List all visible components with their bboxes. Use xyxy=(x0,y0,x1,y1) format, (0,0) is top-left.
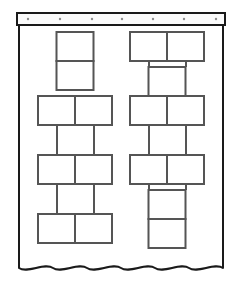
left-row-5-cell-2[interactable] xyxy=(75,214,112,243)
left-row-3-cell-1[interactable] xyxy=(38,96,75,125)
right-row-2-cell-1[interactable] xyxy=(149,67,186,96)
left-row-3-cell-2[interactable] xyxy=(75,96,112,125)
right-row-3-cell-1[interactable] xyxy=(130,96,167,125)
right-row-6-cell-1[interactable] xyxy=(149,219,186,248)
left-row-5-cell-1[interactable] xyxy=(38,214,75,243)
left-row-4-cell-2[interactable] xyxy=(75,155,112,184)
left-row-4-cell-1[interactable] xyxy=(38,155,75,184)
curtain-diagram xyxy=(0,0,241,286)
grommet-4 xyxy=(121,18,123,20)
grommet-6 xyxy=(183,18,185,20)
grommet-5 xyxy=(152,18,154,20)
grommet-3 xyxy=(91,18,93,20)
right-row-1-cell-2[interactable] xyxy=(167,32,204,61)
left-row-2-cell-1[interactable] xyxy=(57,61,94,90)
right-row-3-cell-2[interactable] xyxy=(167,96,204,125)
grommet-1 xyxy=(27,18,29,20)
right-row-5-cell-1[interactable] xyxy=(149,190,186,219)
grommet-7 xyxy=(215,18,217,20)
right-row-4-cell-2[interactable] xyxy=(167,155,204,184)
diagram-canvas xyxy=(0,0,241,286)
right-row-1-cell-1[interactable] xyxy=(130,32,167,61)
right-row-4-cell-1[interactable] xyxy=(130,155,167,184)
grommet-2 xyxy=(59,18,61,20)
left-row-1-cell-1[interactable] xyxy=(57,32,94,61)
